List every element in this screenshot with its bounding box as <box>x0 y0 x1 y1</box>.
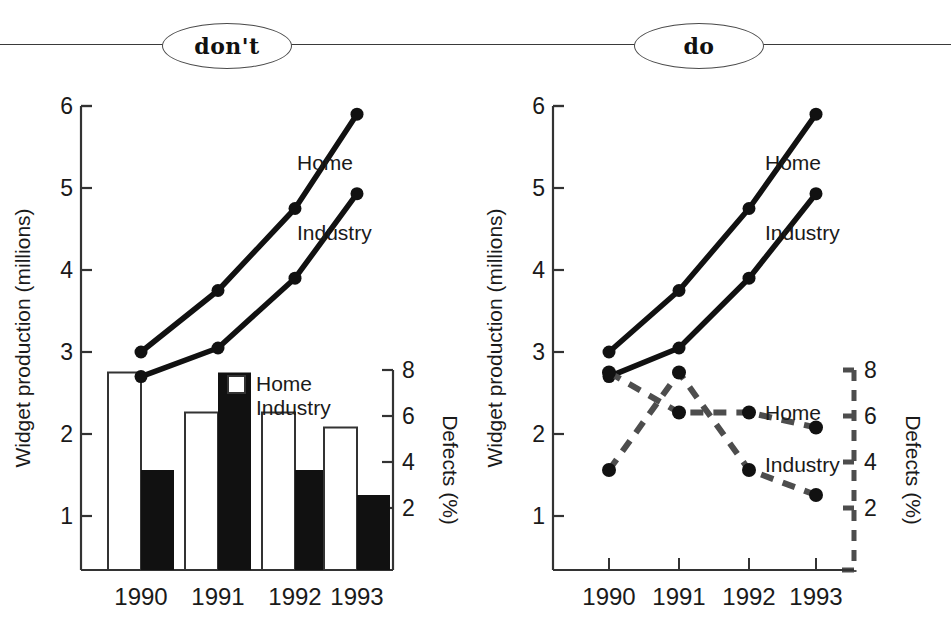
panel-dont: 6 5 4 3 2 1 Widget production (millions)… <box>0 80 476 630</box>
label-home-line: Home <box>297 151 353 174</box>
left-y2tick-2: 2 <box>402 495 415 521</box>
left-xtick-1992: 1992 <box>268 583 321 610</box>
right-ytick-1: 1 <box>532 503 545 529</box>
bar-industry-1993 <box>357 495 390 570</box>
markers-industry-production <box>135 187 364 383</box>
left-yaxis-title: Widget production (millions) <box>11 208 34 467</box>
left-ytick-3: 3 <box>60 339 73 365</box>
bar-industry-1990 <box>141 470 174 570</box>
left-xtick-1993: 1993 <box>330 583 383 610</box>
label-home-defects: Home <box>765 401 821 424</box>
right-y-ticks <box>553 106 564 516</box>
left-y2axis-title: Defects (%) <box>439 415 462 525</box>
right-ytick-4: 4 <box>532 257 545 283</box>
chart-do: 6 5 4 3 2 1 Widget production (millions)… <box>476 80 951 630</box>
chart-dont: 6 5 4 3 2 1 Widget production (millions)… <box>0 80 476 630</box>
badge-do-label: do <box>683 33 714 59</box>
panel-do: 6 5 4 3 2 1 Widget production (millions)… <box>476 80 951 630</box>
label-industry-line: Industry <box>297 221 372 244</box>
right-y2tick-8: 8 <box>864 357 877 383</box>
bar-home-1990 <box>108 373 141 571</box>
label-industry-line: Industry <box>765 221 840 244</box>
right-xtick-1992: 1992 <box>722 583 775 610</box>
right-ytick-3: 3 <box>532 339 545 365</box>
left-ytick-4: 4 <box>60 257 73 283</box>
label-home-line: Home <box>765 151 821 174</box>
right-xtick-1990: 1990 <box>582 583 635 610</box>
legend-swatch-home <box>228 376 245 393</box>
right-secondary-axis-dashed <box>842 370 854 572</box>
left-ytick-5: 5 <box>60 175 73 201</box>
left-y2tick-4: 4 <box>402 449 415 475</box>
left-xtick-1991: 1991 <box>191 583 244 610</box>
right-y2tick-4: 4 <box>864 449 877 475</box>
left-ytick-2: 2 <box>60 421 73 447</box>
left-y2tick-6: 6 <box>402 403 415 429</box>
section-divider-line <box>0 44 951 45</box>
right-y2axis-title: Defects (%) <box>902 415 925 525</box>
badge-do: do <box>634 23 764 69</box>
dashed-line-industry-defects <box>609 373 816 496</box>
legend-label-industry: Industry <box>256 396 331 419</box>
right-xtick-1993: 1993 <box>789 583 842 610</box>
left-ytick-6: 6 <box>60 93 73 119</box>
left-y-ticks <box>81 106 92 516</box>
legend-swatch-industry <box>228 400 245 417</box>
markers-industry-production <box>603 187 823 383</box>
bar-home-1991 <box>185 413 218 571</box>
right-yaxis-title: Widget production (millions) <box>483 208 506 467</box>
right-xtick-1991: 1991 <box>652 583 705 610</box>
badge-dont: don't <box>162 23 292 69</box>
left-ytick-1: 1 <box>60 503 73 529</box>
right-ytick-2: 2 <box>532 421 545 447</box>
figure-root: don't do 6 5 4 3 2 1 <box>0 0 951 630</box>
right-y2tick-6: 6 <box>864 403 877 429</box>
bar-home-1993 <box>324 428 357 571</box>
right-ytick-6: 6 <box>532 93 545 119</box>
left-xtick-1990: 1990 <box>114 583 167 610</box>
badge-dont-label: don't <box>194 33 259 59</box>
left-y2tick-8: 8 <box>402 357 415 383</box>
label-industry-defects: Industry <box>765 453 840 476</box>
right-x-ticks <box>609 558 816 570</box>
bar-home-1992 <box>262 413 295 571</box>
right-y2tick-2: 2 <box>864 495 877 521</box>
legend-label-home: Home <box>256 372 312 395</box>
right-ytick-5: 5 <box>532 175 545 201</box>
